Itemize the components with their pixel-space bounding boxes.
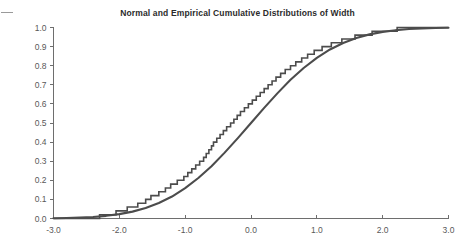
x-tick-label: 2.0 <box>377 225 389 235</box>
x-tick-label: -1.0 <box>178 225 193 235</box>
y-tick-label: 0.7 <box>35 80 47 90</box>
y-tick-label: 0.2 <box>35 175 47 185</box>
y-tick-label: 0.9 <box>35 42 47 52</box>
y-tick-label: 0.6 <box>35 99 47 109</box>
y-tick-label: 0.0 <box>35 214 47 224</box>
y-tick-label: 1.0 <box>35 23 47 33</box>
chart-figure: Normal and Empirical Cumulative Distribu… <box>0 0 475 249</box>
x-tick-label: 0.0 <box>245 225 257 235</box>
y-tick-label: 0.3 <box>35 156 47 166</box>
y-tick-label: 0.1 <box>35 194 47 204</box>
y-axis-tick-labels: 0.00.10.20.30.40.50.60.70.80.91.0 <box>35 23 47 224</box>
y-axis-tick-marks <box>50 28 54 219</box>
y-tick-label: 0.4 <box>35 137 47 147</box>
y-tick-label: 0.8 <box>35 61 47 71</box>
plot-area: 0.00.10.20.30.40.50.60.70.80.91.0 -3.0-2… <box>0 0 475 249</box>
x-tick-label: -2.0 <box>112 225 127 235</box>
x-tick-label: 3.0 <box>443 225 455 235</box>
x-axis-tick-labels: -3.0-2.0-1.00.01.02.03.0 <box>46 225 455 235</box>
y-tick-label: 0.5 <box>35 118 47 128</box>
x-tick-label: 1.0 <box>311 225 323 235</box>
normal-cdf-curve <box>54 28 449 219</box>
x-tick-label: -3.0 <box>46 225 61 235</box>
